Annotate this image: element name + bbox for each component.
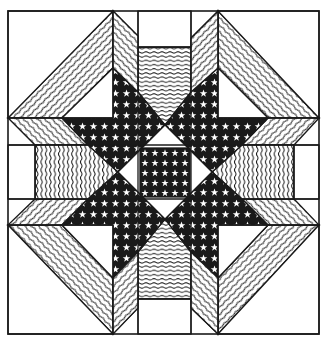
cap-left xyxy=(8,145,35,199)
quilt-block-drawing xyxy=(0,0,332,341)
cap-right xyxy=(294,145,319,199)
quilt-block-figure: Eight-pointed star quilt block xyxy=(0,0,332,341)
cap-bottom xyxy=(138,299,191,334)
center-square xyxy=(140,148,190,197)
cap-top xyxy=(138,11,191,47)
